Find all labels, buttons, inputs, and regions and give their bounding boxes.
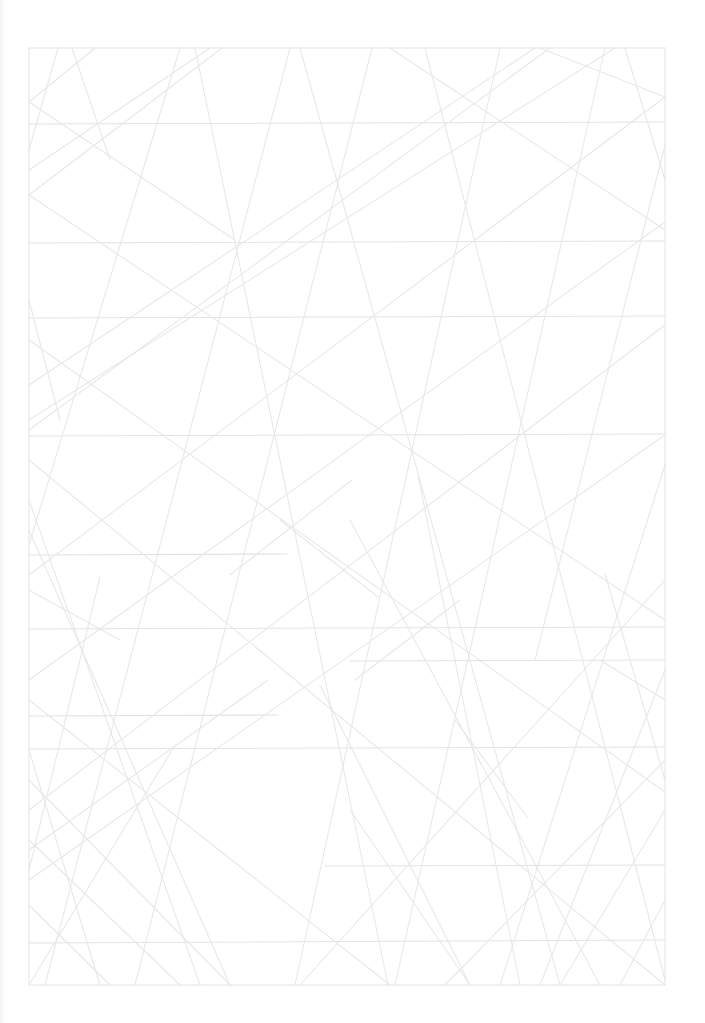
horizontal-line xyxy=(29,316,665,318)
diagonal-line xyxy=(320,685,470,985)
diagonal-line xyxy=(620,900,665,985)
diagonal-line xyxy=(300,48,560,985)
diagonal-line xyxy=(29,97,665,575)
horizontal-line xyxy=(325,865,665,866)
diagonal-line xyxy=(418,475,520,985)
diagonal-line xyxy=(445,760,665,985)
diagonal-line xyxy=(280,520,378,597)
diagonal-line xyxy=(300,580,665,985)
page-frame xyxy=(29,48,665,985)
diagonal-line xyxy=(29,325,665,810)
diagonal-line xyxy=(29,577,100,870)
diagonal-line xyxy=(540,670,665,985)
diagonal-line xyxy=(29,435,665,880)
diagonal-line xyxy=(29,48,210,170)
diagonal-line xyxy=(29,680,268,850)
diagonal-lines-group xyxy=(29,48,665,985)
diagonal-line xyxy=(560,810,665,985)
diagonal-line xyxy=(600,660,665,700)
diagonal-line xyxy=(29,530,230,985)
diagonal-line xyxy=(29,48,615,420)
line-art-canvas xyxy=(0,0,705,1023)
diagonal-line xyxy=(295,48,500,985)
diagonal-line xyxy=(390,48,665,230)
horizontal-line xyxy=(29,940,665,943)
diagonal-line xyxy=(29,460,665,985)
diagonal-line xyxy=(350,810,470,985)
horizontal-lines-group xyxy=(29,122,665,943)
diagonal-line xyxy=(455,720,528,818)
diagonal-line xyxy=(230,480,352,575)
diagonal-line xyxy=(29,500,200,985)
diagonal-line xyxy=(535,145,665,660)
diagonal-line xyxy=(29,780,230,985)
horizontal-line xyxy=(29,241,665,243)
diagonal-line xyxy=(350,520,600,985)
diagonal-line xyxy=(29,905,110,985)
horizontal-line xyxy=(350,660,665,661)
diagonal-line xyxy=(29,48,95,102)
diagonal-line xyxy=(29,48,180,545)
diagonal-line xyxy=(500,465,665,985)
horizontal-line xyxy=(29,434,665,436)
diagonal-line xyxy=(605,574,665,780)
diagonal-line xyxy=(625,48,665,180)
diagonal-line xyxy=(29,750,100,985)
horizontal-line xyxy=(29,627,665,629)
diagonal-line xyxy=(29,48,535,385)
